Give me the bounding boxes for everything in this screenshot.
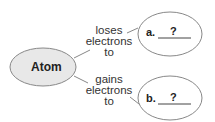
target-a-blank: ? [170,25,177,37]
edge-b-label-line-3: to [84,96,134,107]
edge-a-label-line-3: to [84,47,134,58]
atom-label: Atom [31,60,62,74]
target-b-prefix: b. [146,92,156,104]
edge-a-label: loses electrons to [84,25,134,58]
target-a-prefix: a. [146,26,155,38]
edge-b-label: gains electrons to [84,74,134,107]
target-b-blank: ? [170,91,177,103]
